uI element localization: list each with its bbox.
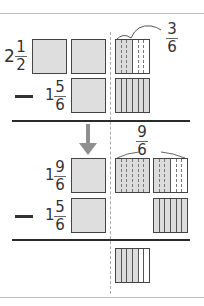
step1-sum-line xyxy=(12,120,190,122)
step1-subtrahend-fraction: 5 6 xyxy=(54,80,66,113)
top-rule xyxy=(0,13,204,14)
denominator: 6 xyxy=(55,218,65,233)
step2-sum-line xyxy=(12,239,190,241)
denominator: 6 xyxy=(55,98,65,113)
down-arrow-icon xyxy=(86,124,90,144)
step1-minuend-fraction: 1 2 xyxy=(15,40,27,73)
step2-minuend-fraction: 9 6 xyxy=(54,160,66,193)
numerator: 5 xyxy=(55,80,65,95)
down-arrow-head-icon xyxy=(79,143,97,155)
numerator: 9 xyxy=(137,125,147,140)
whole-square xyxy=(71,198,106,233)
result-four-sixths-box xyxy=(115,248,150,283)
denominator: 6 xyxy=(167,40,177,55)
whole-square xyxy=(71,158,106,193)
five-sixths-box xyxy=(153,198,188,233)
denominator: 2 xyxy=(16,58,26,73)
step2-subtrahend-fraction: 5 6 xyxy=(54,200,66,233)
half-box-sixths xyxy=(153,158,188,193)
six-sixths-dashed-box xyxy=(115,158,150,193)
minus-sign xyxy=(15,95,33,98)
step1-callout-fraction: 3 6 xyxy=(166,22,178,55)
callout-curve-icon xyxy=(113,22,165,42)
denominator: 6 xyxy=(55,178,65,193)
divider-dotted-line xyxy=(110,32,111,294)
five-sixths-box xyxy=(115,78,150,113)
bottom-rule xyxy=(0,297,204,298)
numerator: 9 xyxy=(55,160,65,175)
whole-square xyxy=(71,78,106,113)
step1-minuend-whole: 2 xyxy=(4,48,15,65)
half-box-sixths xyxy=(115,39,150,74)
whole-square xyxy=(32,39,67,74)
minus-sign xyxy=(15,215,33,218)
numerator: 3 xyxy=(167,22,177,37)
numerator: 1 xyxy=(16,40,26,55)
whole-square xyxy=(71,39,106,74)
numerator: 5 xyxy=(55,200,65,215)
